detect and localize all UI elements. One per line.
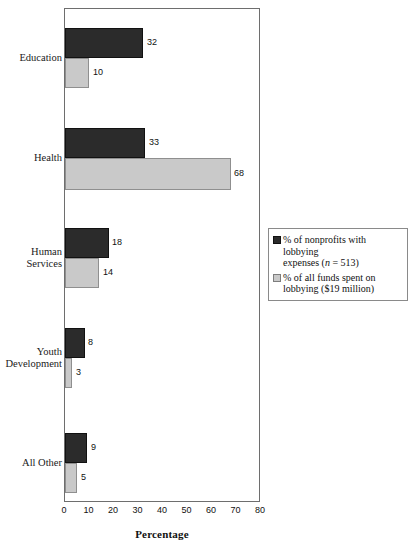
category-label-human-services-line2: Services xyxy=(0,258,62,270)
bar-chart: 32 10 33 68 18 14 8 3 9 5 Education Heal… xyxy=(0,0,418,552)
category-label-youth-development-line2: Development xyxy=(0,358,62,370)
bars-layer: 32 10 33 68 18 14 8 3 9 5 xyxy=(65,9,260,501)
legend-label-nonprofits-line2-pre: expenses ( xyxy=(283,257,325,268)
xtick-label-80: 80 xyxy=(245,505,275,515)
bar-value-health-nonprofits: 33 xyxy=(149,138,159,147)
bar-value-youth-development-funds: 3 xyxy=(76,368,81,377)
bar-value-all-other-nonprofits: 9 xyxy=(91,443,96,452)
category-label-all-other: All Other xyxy=(0,457,62,469)
bar-education-funds xyxy=(65,58,89,88)
bar-human-services-nonprofits xyxy=(65,228,109,258)
category-label-human-services: Human Services xyxy=(0,246,62,269)
category-label-health: Health xyxy=(0,152,62,164)
legend-swatch-light-icon xyxy=(273,274,281,282)
bar-youth-development-nonprofits xyxy=(65,328,85,358)
bar-value-human-services-funds: 14 xyxy=(103,268,113,277)
category-label-human-services-line1: Human xyxy=(0,246,62,258)
bar-human-services-funds xyxy=(65,258,99,288)
legend-swatch-dark-icon xyxy=(273,236,281,244)
legend-label-funds-line2: lobbying ($19 million) xyxy=(283,283,374,294)
legend-label-nonprofits-line1: % of nonprofits with lobbying xyxy=(283,234,366,257)
category-label-education: Education xyxy=(0,52,62,64)
bar-all-other-funds xyxy=(65,463,77,493)
bar-health-funds xyxy=(65,158,231,190)
bar-value-all-other-funds: 5 xyxy=(81,473,86,482)
x-axis-title: Percentage xyxy=(64,528,260,540)
bar-education-nonprofits xyxy=(65,28,143,58)
legend-label-nonprofits-line2-post: = 513) xyxy=(330,257,359,268)
bar-value-education-funds: 10 xyxy=(93,68,103,77)
bar-value-human-services-nonprofits: 18 xyxy=(112,238,122,247)
legend-label-nonprofits: % of nonprofits with lobbyingexpenses (n… xyxy=(283,234,402,269)
chart-legend: % of nonprofits with lobbyingexpenses (n… xyxy=(268,228,408,301)
bar-health-nonprofits xyxy=(65,128,145,158)
legend-label-funds-line1: % of all funds spent on xyxy=(283,272,376,283)
bar-youth-development-funds xyxy=(65,358,72,388)
legend-label-funds: % of all funds spent onlobbying ($19 mil… xyxy=(283,272,376,295)
bar-value-health-funds: 68 xyxy=(234,169,244,178)
legend-item-funds: % of all funds spent onlobbying ($19 mil… xyxy=(273,272,402,295)
bar-value-youth-development-nonprofits: 8 xyxy=(88,338,93,347)
category-label-youth-development: Youth Development xyxy=(0,346,62,369)
bar-value-education-nonprofits: 32 xyxy=(147,38,157,47)
category-label-youth-development-line1: Youth xyxy=(0,346,62,358)
legend-item-nonprofits: % of nonprofits with lobbyingexpenses (n… xyxy=(273,234,402,269)
bar-all-other-nonprofits xyxy=(65,433,87,463)
